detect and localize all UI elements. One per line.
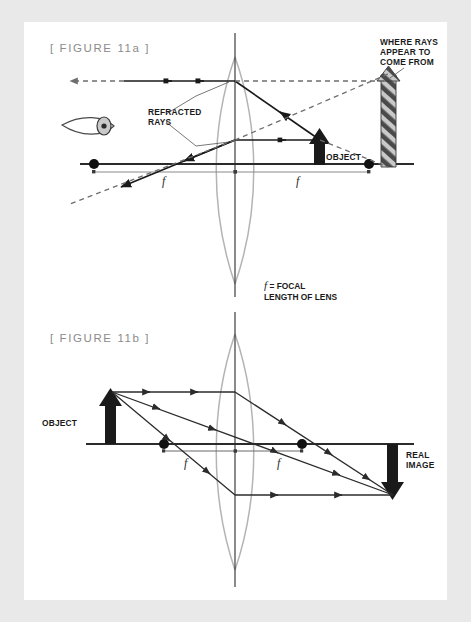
focal-legend-equals: =: [269, 281, 274, 291]
refracted-rays-label-line1: REFRACTED: [148, 107, 201, 118]
where-rays-label-line3: COME FROM: [380, 57, 434, 68]
figure-11a-label: [ FIGURE 11a ]: [50, 42, 150, 54]
focal-legend-line2: LENGTH OF LENS: [264, 292, 337, 302]
focal-point-left-11b: [159, 439, 169, 449]
figure-card: [ FIGURE 11a ] REFRACTED RAYS WHERE RAYS…: [24, 22, 447, 600]
refracted-rays-label-line2: RAYS: [148, 117, 171, 128]
focal-measure-line-11a: [92, 170, 370, 174]
where-rays-label-line2: APPEAR TO: [380, 47, 431, 58]
object-label-11b: OBJECT: [42, 418, 77, 429]
eye-icon: [62, 117, 114, 135]
real-image-label-line1: REAL: [406, 450, 430, 461]
page-canvas: [ FIGURE 11a ] REFRACTED RAYS WHERE RAYS…: [0, 0, 471, 622]
focal-legend-line1: FOCAL: [277, 281, 306, 291]
focal-label-right-11b: f: [277, 456, 280, 471]
focal-label-right-11a: f: [296, 174, 299, 189]
incident-ray-to-apex-11a: [235, 81, 320, 140]
real-image-label-line2: IMAGE: [406, 460, 434, 471]
focal-label-left-11b: f: [184, 456, 187, 471]
where-rays-label-line1: WHERE RAYS: [380, 37, 438, 48]
focal-point-left-11a: [89, 159, 99, 169]
virtual-ray-extensions-11a: [70, 74, 388, 204]
figure-11b-label: [ FIGURE 11b ]: [50, 332, 150, 344]
object-arrow-icon-11b: [99, 388, 122, 444]
focal-label-left-11a: f: [162, 174, 165, 189]
figure-11b-diagram: [24, 312, 447, 602]
focal-length-legend: f = FOCAL LENGTH OF LENS: [264, 280, 337, 302]
focal-point-right-11b: [297, 439, 307, 449]
focal-legend-symbol: f: [264, 279, 267, 291]
object-label-11a: OBJECT: [326, 152, 361, 163]
